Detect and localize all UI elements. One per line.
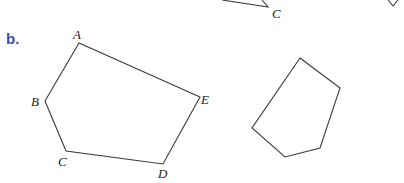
pentagon-abcde: A B C D E [31,27,209,181]
top-fragment: C [222,0,398,21]
fragment-corner-right [388,0,398,6]
fragment-vertex-label-c: C [272,6,281,21]
pentagon-abcde-outline [45,43,200,164]
vertex-label-d: D [157,166,168,181]
geometry-figure: C A B C D E [0,0,404,183]
pentagon-unlabeled-outline [252,58,340,157]
vertex-label-e: E [200,92,209,107]
vertex-label-a: A [72,27,81,42]
pentagon-unlabeled [252,58,340,157]
fragment-edges [222,0,268,7]
vertex-label-c: C [58,154,67,169]
vertex-label-b: B [31,94,39,109]
